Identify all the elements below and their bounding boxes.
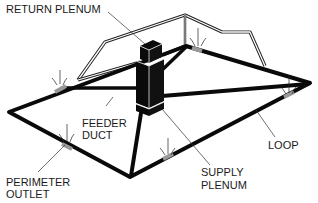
feeder-duct-label-line1: FEEDER: [82, 117, 127, 129]
house-outline: [78, 15, 265, 80]
supply-plenum-label-line1: SUPPLY: [201, 166, 244, 178]
supply-plenum-label-line2: PLENUM: [201, 179, 247, 191]
outlet-left-upper: [52, 70, 67, 92]
feeder-ducts: [62, 47, 308, 176]
plenum: [136, 40, 164, 116]
outlet-bottom-right: [160, 138, 175, 159]
loop-label: LOOP: [268, 139, 299, 151]
return-plenum-label: RETURN PLENUM: [6, 3, 101, 15]
perimeter-outlet-label-line1: PERIMETER: [6, 176, 70, 188]
feeder-duct-label-line2: DUCT: [82, 129, 113, 141]
duct-system-diagram: [0, 0, 318, 203]
perimeter-outlet-label-line2: OUTLET: [6, 188, 49, 200]
